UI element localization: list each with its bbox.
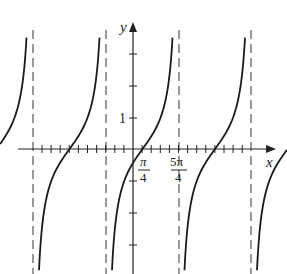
svg-text:5π: 5π <box>170 154 184 169</box>
graph-svg: y x 1 π 4 5π 4 <box>0 0 287 274</box>
svg-text:4: 4 <box>140 170 147 185</box>
curve-branch <box>185 38 246 271</box>
x-axis-arrow-icon <box>266 145 276 153</box>
x-tick-label-5pi-over-4: 5π 4 <box>170 154 187 185</box>
x-tick-label-pi-over-4: π 4 <box>138 154 150 185</box>
curve-branch <box>0 38 27 145</box>
y-tick-label-1: 1 <box>119 111 126 126</box>
svg-text:4: 4 <box>175 170 182 185</box>
svg-text:π: π <box>140 154 147 169</box>
graph-figure: y x 1 π 4 5π 4 <box>0 0 287 274</box>
curve-branch <box>39 38 100 271</box>
y-axis-label: y <box>118 19 127 35</box>
x-axis-label: x <box>265 154 273 170</box>
y-axis-arrow-icon <box>129 22 137 32</box>
